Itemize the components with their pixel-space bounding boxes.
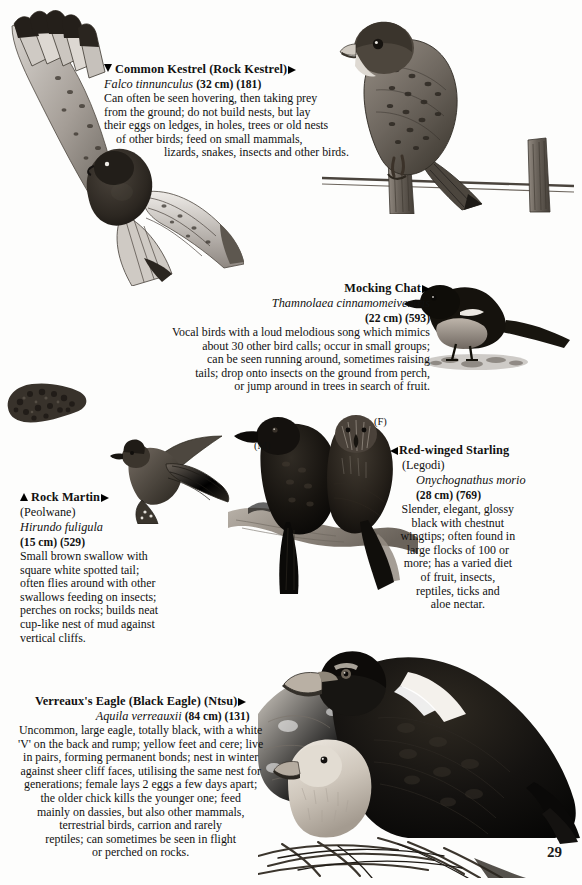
kestrel-perched-illustration xyxy=(322,8,574,214)
species-block-verreauxs-eagle: Verreaux's Eagle (Black Eagle) (Ntsu) Aq… xyxy=(18,694,263,860)
species-scientific-name-common-kestrel: Falco tinnunculus (32 cm) (181) xyxy=(104,77,349,92)
page-number: 29 xyxy=(547,844,562,861)
species-scientific-name-mocking-chat: Thamnolaea cinnamomeiventris xyxy=(172,296,430,311)
species-measurement-red-winged-starling: (28 cm) (769) xyxy=(390,488,526,503)
species-scientific-name-red-winged-starling: Onychognathus morio xyxy=(390,473,526,488)
field-guide-page: Common Kestrel (Rock Kestrel) Falco tinn… xyxy=(0,0,582,885)
triangle-right-icon xyxy=(101,494,109,502)
triangle-left-icon xyxy=(390,447,398,455)
species-local-name-rock-martin: (Peolwane) xyxy=(20,505,158,520)
martin-mud-nest-illustration xyxy=(2,378,98,430)
triangle-down-icon xyxy=(104,64,112,72)
species-description-rock-martin: Small brown swallow with square white sp… xyxy=(20,550,158,645)
triangle-up-icon xyxy=(20,493,28,501)
species-description-mocking-chat: Vocal birds with a loud melodious song w… xyxy=(172,326,430,394)
species-common-name-verreauxs-eagle: Verreaux's Eagle (Black Eagle) (Ntsu) xyxy=(18,694,263,709)
triangle-right-icon xyxy=(288,66,296,74)
species-common-name-common-kestrel: Common Kestrel (Rock Kestrel) xyxy=(104,62,349,77)
species-measurement-rock-martin: (15 cm) (529) xyxy=(20,535,158,550)
starling-male-label: (M) xyxy=(254,440,270,451)
species-block-red-winged-starling: Red-winged Starling (Legodi) Onychognath… xyxy=(390,443,526,612)
triangle-right-icon xyxy=(422,285,430,293)
species-block-mocking-chat: Mocking Chat Thamnolaea cinnamomeiventri… xyxy=(172,281,430,394)
species-block-common-kestrel: Common Kestrel (Rock Kestrel) Falco tinn… xyxy=(104,62,349,160)
species-common-name-rock-martin: Rock Martin xyxy=(20,490,158,505)
species-scientific-name-verreauxs-eagle: Aquila verreauxii (84 cm) (131) xyxy=(18,709,263,724)
species-measurement-mocking-chat: (22 cm) (593) xyxy=(172,311,430,326)
species-description-verreauxs-eagle: Uncommon, large eagle, totally black, wi… xyxy=(18,724,263,860)
species-local-name-red-winged-starling: (Legodi) xyxy=(390,458,526,473)
verreauxs-eagle-illustration xyxy=(258,630,580,878)
species-description-red-winged-starling: Slender, elegant, glossy black with ches… xyxy=(390,503,526,612)
triangle-right-icon xyxy=(238,698,246,706)
species-block-rock-martin: Rock Martin (Peolwane) Hirundo fuligula … xyxy=(20,490,158,645)
starling-female-label: (F) xyxy=(374,416,387,427)
species-description-common-kestrel: Can often be seen hovering, then taking … xyxy=(104,92,349,160)
species-scientific-name-rock-martin: Hirundo fuligula xyxy=(20,520,158,535)
species-common-name-red-winged-starling: Red-winged Starling xyxy=(390,443,526,458)
species-common-name-mocking-chat: Mocking Chat xyxy=(172,281,430,296)
